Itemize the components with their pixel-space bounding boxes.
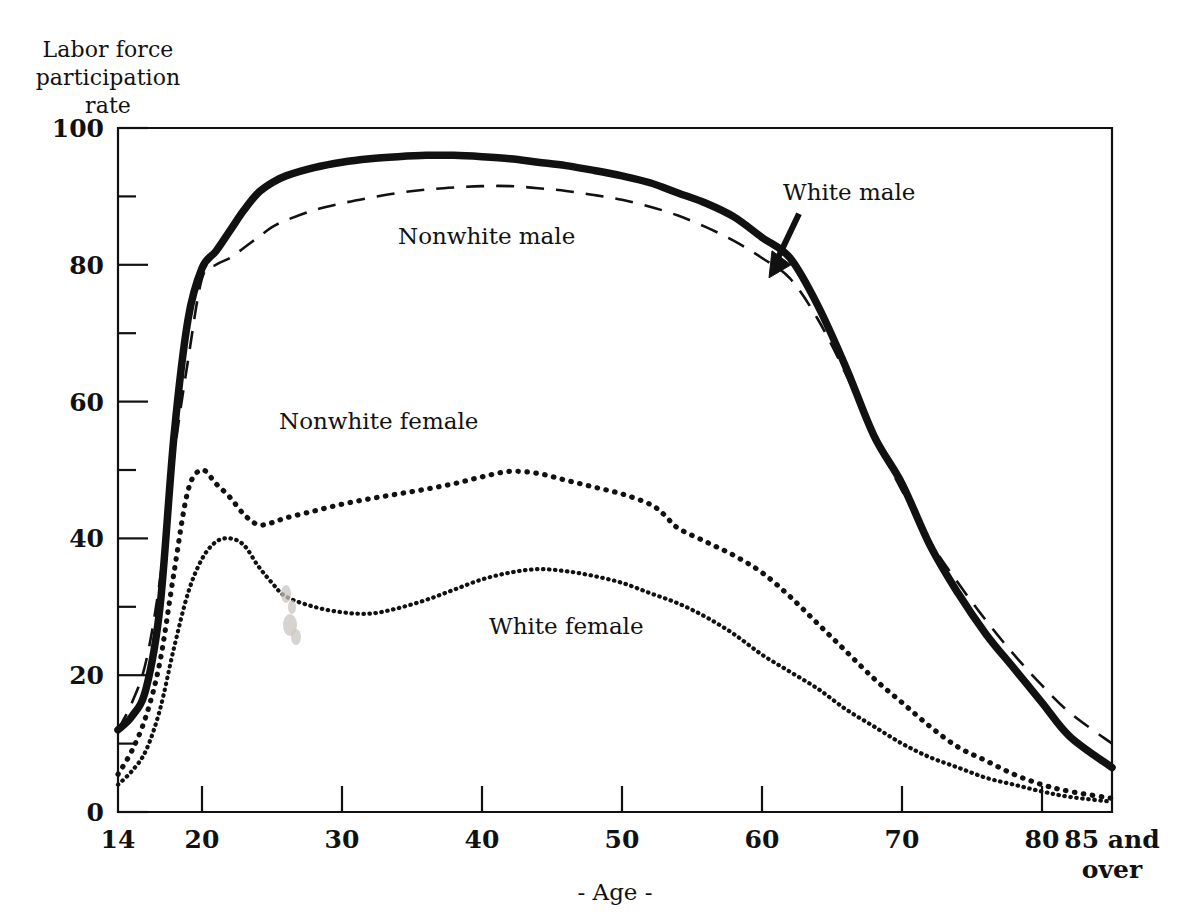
x-axis-title: - Age - <box>577 879 652 905</box>
x-tick-label: 60 <box>745 825 780 854</box>
x-tick-label: over <box>1082 855 1143 884</box>
x-tick-label: 30 <box>325 825 360 854</box>
series-curve-white-female <box>118 538 1112 802</box>
y-tick-labels: 020406080100 <box>52 114 104 827</box>
series-label-nonwhite-female: Nonwhite female <box>279 408 478 434</box>
y-tick-label: 40 <box>69 524 104 553</box>
series-label-nonwhite-male: Nonwhite male <box>398 223 575 249</box>
series-label-white-male: White male <box>783 179 915 205</box>
data-curves <box>118 155 1112 802</box>
series-curve-white-male <box>118 155 1112 767</box>
series-annotations: White maleNonwhite maleNonwhite femaleWh… <box>279 179 915 639</box>
y-tick-label: 100 <box>52 114 104 143</box>
x-tick-label: 80 <box>1025 825 1060 854</box>
x-tick-label: 14 <box>101 825 136 854</box>
series-label-white-female: White female <box>489 613 644 639</box>
y-tick-label: 20 <box>69 661 104 690</box>
x-tick-label: 50 <box>605 825 640 854</box>
y-tick-label: 60 <box>69 388 104 417</box>
paper-smudges <box>281 585 301 645</box>
chart-canvas: 020406080100 142030405060708085 andover … <box>0 0 1191 924</box>
series-curve-nonwhite-male <box>118 186 1112 744</box>
x-tick-labels: 142030405060708085 andover <box>101 825 1160 884</box>
x-tick-label: 85 and <box>1064 825 1159 854</box>
figure-container: Labor force participation rate 020406080… <box>0 0 1191 924</box>
y-tick-label: 80 <box>69 251 104 280</box>
x-axis-title-text: - Age - <box>577 879 652 905</box>
x-tick-label: 40 <box>465 825 500 854</box>
axis-ticks <box>118 128 1042 812</box>
x-tick-label: 70 <box>885 825 920 854</box>
x-tick-label: 20 <box>185 825 220 854</box>
y-tick-label: 0 <box>87 798 104 827</box>
